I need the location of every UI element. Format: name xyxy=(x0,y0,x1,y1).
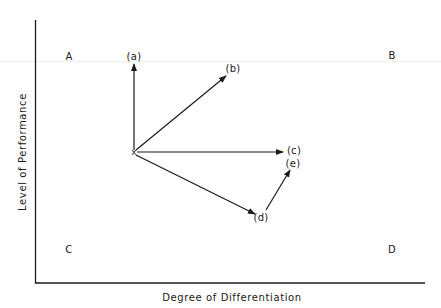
quadrant-c-label: C xyxy=(65,245,72,255)
x-axis-title: Degree of Differentiation xyxy=(162,292,301,303)
y-axis-title: Level of Performance xyxy=(17,93,28,211)
arrow-c-label: (c) xyxy=(287,146,301,156)
arrow-b-label: (b) xyxy=(225,64,240,74)
arrow-e xyxy=(266,170,290,210)
quadrant-b-label: B xyxy=(388,51,395,61)
diagram-canvas xyxy=(0,0,441,308)
arrow-e-label: (e) xyxy=(286,159,301,169)
quadrant-d-label: D xyxy=(388,245,396,255)
arrow-d-label: (d) xyxy=(253,213,268,223)
arrow-a-label: (a) xyxy=(127,52,142,62)
arrow-b xyxy=(136,76,226,150)
origin-marker: x xyxy=(131,147,137,157)
quadrant-a-label: A xyxy=(65,52,72,62)
arrow-d xyxy=(136,155,255,214)
